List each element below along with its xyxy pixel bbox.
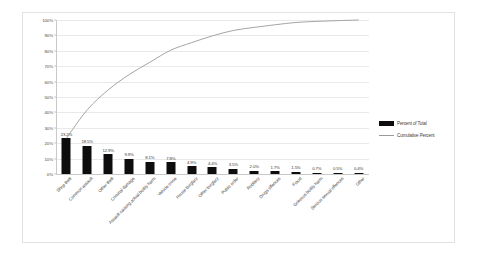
legend-bar-swatch-icon xyxy=(379,121,394,126)
y-axis-tick-label: 30% xyxy=(45,125,54,130)
y-axis-tick-mark xyxy=(54,97,56,98)
x-axis-category-label: House burglary xyxy=(175,176,199,200)
y-axis-tick-mark xyxy=(54,143,56,144)
y-axis-tick-label: 10% xyxy=(45,156,54,161)
legend-item[interactable]: Percent of Total xyxy=(379,120,453,127)
x-axis-category-label: Other burglary xyxy=(197,176,219,198)
x-axis-category-label: Shop theft xyxy=(56,176,73,193)
y-axis-tick-mark xyxy=(54,112,56,113)
y-axis-tick-mark xyxy=(54,81,56,82)
plot-wrapper: 23.2%18.5%12.9%9.9%8.1%7.8%4.9%4.4%3.5%2… xyxy=(23,13,454,242)
gridline xyxy=(56,174,369,175)
y-axis-tick-label: 70% xyxy=(45,64,54,69)
line-series-cumulative-percent xyxy=(56,20,369,174)
y-axis-tick-label: 40% xyxy=(45,110,54,115)
y-axis-tick-mark xyxy=(54,20,56,21)
y-axis-tick-mark xyxy=(54,66,56,67)
y-axis-tick-mark xyxy=(54,127,56,128)
legend-line-swatch-icon xyxy=(379,133,394,138)
y-axis-tick-mark xyxy=(54,158,56,159)
y-axis-tick-label: 100% xyxy=(42,18,53,23)
chart-legend: Percent of TotalCumulative Percent xyxy=(379,120,453,144)
x-axis-category-label: Other theft xyxy=(97,176,114,193)
y-axis-tick-mark xyxy=(54,174,56,175)
y-axis-tick-label: 60% xyxy=(45,79,54,84)
x-axis-category-label: Robbery xyxy=(246,176,261,191)
legend-label: Percent of Total xyxy=(397,121,427,126)
y-axis-tick-mark xyxy=(54,50,56,51)
x-axis-category-label: Public order xyxy=(221,176,240,195)
x-axis-category-label: Vehicle crime xyxy=(156,176,177,197)
y-axis-tick-label: 80% xyxy=(45,48,54,53)
x-axis-category-label: Assault causing actual bodily harm xyxy=(107,176,156,225)
plot-area: 23.2%18.5%12.9%9.9%8.1%7.8%4.9%4.4%3.5%2… xyxy=(56,20,369,174)
x-axis-category-labels: Shop theftCommon assaultOther theftCrimi… xyxy=(56,176,369,238)
x-axis-category-label: Other xyxy=(354,176,365,187)
y-axis-tick-mark xyxy=(54,35,56,36)
cumulative-percent-path xyxy=(66,20,358,138)
pareto-chart-container: 23.2%18.5%12.9%9.9%8.1%7.8%4.9%4.4%3.5%2… xyxy=(22,12,455,243)
legend-item[interactable]: Cumulative Percent xyxy=(379,132,453,139)
y-axis-tick-label: 90% xyxy=(45,33,54,38)
legend-label: Cumulative Percent xyxy=(397,133,434,138)
y-axis-tick-label: 50% xyxy=(45,95,54,100)
y-axis xyxy=(56,20,57,174)
y-axis-tick-label: 0% xyxy=(47,172,53,177)
x-axis-category-label: Fraud xyxy=(291,176,302,187)
x-axis-category-label: Drugs offences xyxy=(258,176,281,199)
y-axis-tick-label: 20% xyxy=(45,141,54,146)
